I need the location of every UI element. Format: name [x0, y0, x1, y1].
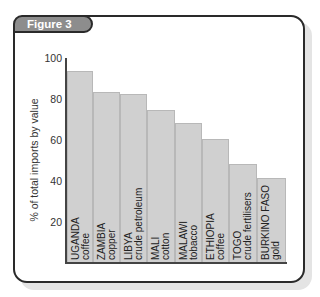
bar-zambia: ZAMBIAcopper [93, 92, 120, 262]
bar-label: ZAMBIAcopper [97, 223, 117, 260]
bar-uganda: UGANDAcoffee [67, 71, 93, 262]
bar-ethiopia: ETHIOPIAcoffee [202, 139, 229, 262]
y-axis-line [65, 58, 67, 264]
y-tick-60: 60 [50, 134, 62, 146]
bar-label: LIBYAcrude petroleum [124, 188, 144, 260]
product-name: cotton [161, 233, 171, 260]
product-name: coffee [216, 213, 226, 260]
bar-malawi: MALAWItobacco [175, 123, 202, 262]
bar-chart: % of total imports by value 100 80 60 40… [0, 0, 320, 297]
product-name: crude petroleum [134, 188, 144, 260]
y-axis-label: % of total imports by value [28, 98, 40, 221]
y-tick-100: 100 [44, 52, 62, 64]
bar-libya: LIBYAcrude petroleum [120, 94, 147, 262]
product-name: tobacco [189, 221, 199, 260]
bar-label: MALAWItobacco [179, 221, 199, 260]
bar-label: BURKINO FASOgold [261, 185, 281, 260]
x-axis-line [65, 262, 287, 264]
product-name: crude fertilisers [243, 192, 253, 260]
product-name: coffee [81, 217, 91, 260]
bar-label: ETHIOPIAcoffee [206, 213, 226, 260]
product-name: copper [107, 223, 117, 260]
bar-burkino-faso: BURKINO FASOgold [257, 178, 286, 262]
bar-label: UGANDAcoffee [71, 217, 91, 260]
y-tick-40: 40 [50, 175, 62, 187]
bar-mali: MALIcotton [147, 110, 175, 262]
y-tick-80: 80 [50, 93, 62, 105]
bar-togo: TOGOcrude fertilisers [229, 164, 257, 262]
product-name: gold [271, 185, 281, 260]
bar-label: TOGOcrude fertilisers [233, 192, 253, 260]
bar-label: MALIcotton [151, 233, 171, 260]
y-tick-20: 20 [50, 216, 62, 228]
